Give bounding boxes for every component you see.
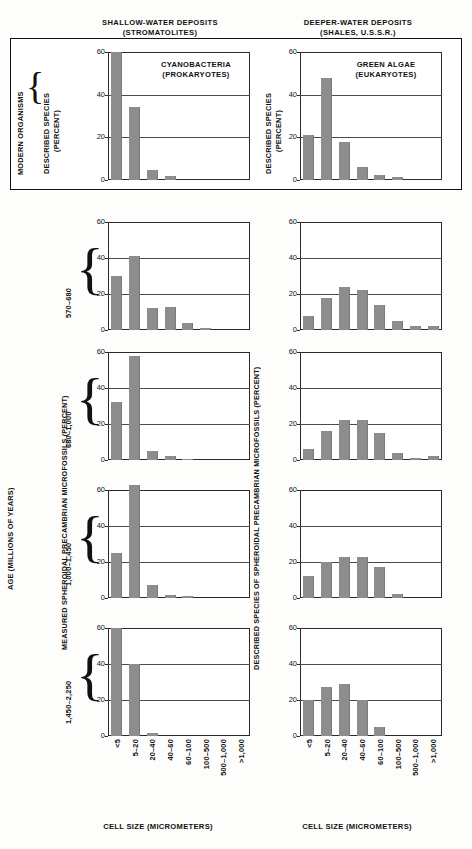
bar-age1-left-1 <box>129 256 140 330</box>
y-tickmark-20 <box>105 424 108 425</box>
y-tickmark-40 <box>297 95 300 96</box>
y-tick-40: 40 <box>289 660 297 668</box>
age-row-brace-1: { <box>76 370 104 428</box>
bar-modern-right-0 <box>303 135 314 180</box>
gridline-20 <box>300 294 442 295</box>
chart-inner-title: GREEN ALGAE(EUKARYOTES) <box>332 60 440 80</box>
bar-age1-left-4 <box>182 323 193 330</box>
bar-age2-left-2 <box>147 451 158 460</box>
bar-age4-right-3 <box>357 700 368 736</box>
column-header-deeper-water-line2: (SHALES, U.S.S.R.) <box>258 28 458 38</box>
bar-age3-left-0 <box>111 553 122 598</box>
bar-modern-right-5 <box>392 177 403 180</box>
chart-age4-right: 6040200 <box>300 628 442 736</box>
y-tickmark-40 <box>297 258 300 259</box>
bar-age2-right-0 <box>303 449 314 460</box>
y-tickmark-0 <box>297 330 300 331</box>
gridline-40 <box>300 258 442 259</box>
chart-inner-title-line1: GREEN ALGAE <box>332 60 440 70</box>
y-tickmark-40 <box>297 664 300 665</box>
y-tickmark-20 <box>105 700 108 701</box>
x-axis-label-right-3: 40–60 <box>358 739 367 761</box>
y-tickmark-60 <box>105 222 108 223</box>
age-row-label-1: 680–1,000 <box>64 370 73 448</box>
y-tick-20: 20 <box>289 290 297 298</box>
bar-age3-right-2 <box>339 557 350 598</box>
y-tickmark-20 <box>297 562 300 563</box>
y-tickmark-60 <box>105 628 108 629</box>
y-tickmark-60 <box>297 628 300 629</box>
bar-age4-right-4 <box>374 727 385 736</box>
y-tickmark-40 <box>105 664 108 665</box>
y-tickmark-20 <box>297 424 300 425</box>
y-tickmark-40 <box>297 526 300 527</box>
y-tickmark-40 <box>297 388 300 389</box>
bar-age1-right-0 <box>303 316 314 330</box>
chart-age4-left: 6040200 <box>108 628 250 736</box>
y-tick-60: 60 <box>289 218 297 226</box>
bar-age4-right-0 <box>303 700 314 736</box>
y-tick-40: 40 <box>289 384 297 392</box>
bar-age4-left-1 <box>129 664 140 736</box>
x-axis-label-left-3: 40–60 <box>166 739 175 761</box>
y-tick-20: 20 <box>289 696 297 704</box>
y-tickmark-40 <box>105 388 108 389</box>
y-tick-60: 60 <box>97 348 105 356</box>
y-tickmark-40 <box>105 258 108 259</box>
bar-modern-right-2 <box>339 142 350 180</box>
y-tick-60: 60 <box>97 486 105 494</box>
gridline-40 <box>300 526 442 527</box>
chart-inner-title-line2: (PROKARYOTES) <box>142 70 250 80</box>
x-axis-label-left-2: 20–40 <box>148 739 157 761</box>
bar-age1-left-5 <box>200 328 211 330</box>
bar-age2-left-1 <box>129 356 140 460</box>
bar-age2-left-3 <box>165 456 176 460</box>
bar-age1-right-4 <box>374 305 385 330</box>
x-axis-label-right-0: <5 <box>305 739 314 748</box>
bar-age2-left-4 <box>182 459 193 460</box>
x-axis-label-right-7: >1,000 <box>429 739 438 763</box>
bar-age1-right-7 <box>428 326 439 331</box>
bar-modern-left-3 <box>165 176 176 180</box>
y-tickmark-60 <box>105 52 108 53</box>
y-tickmark-20 <box>297 137 300 138</box>
x-axis-label-right-4: 60–100 <box>376 739 385 765</box>
y-tickmark-60 <box>105 352 108 353</box>
chart-age2-right: 6040200 <box>300 352 442 460</box>
bar-age3-left-1 <box>129 485 140 598</box>
bar-age1-left-3 <box>165 307 176 330</box>
y-tick-40: 40 <box>289 91 297 99</box>
age-row-brace-2: { <box>76 508 104 566</box>
bar-age2-right-5 <box>392 453 403 460</box>
bar-modern-left-1 <box>129 107 140 180</box>
chart-age2-left: 6040200 <box>108 352 250 460</box>
y-tickmark-60 <box>297 222 300 223</box>
gridline-40 <box>300 388 442 389</box>
y-tickmark-60 <box>105 490 108 491</box>
bar-age2-left-0 <box>111 402 122 460</box>
y-tick-60: 60 <box>289 48 297 56</box>
x-axis-label-left-1: 5–20 <box>131 739 140 756</box>
modern-y-axis-label-line1: DESCRIBED SPECIES <box>42 58 51 174</box>
bar-age2-right-4 <box>374 433 385 460</box>
x-axis-labels-right: <55–2020–4040–6060–100100–500500–1,000>1… <box>300 739 442 801</box>
bar-age1-right-5 <box>392 321 403 330</box>
bar-modern-left-0 <box>111 52 122 180</box>
gridline-40 <box>108 95 250 96</box>
y-tickmark-0 <box>297 460 300 461</box>
modern-right-y-axis-label-line2: (PERCENT) <box>274 80 283 152</box>
bar-age3-right-5 <box>392 594 403 598</box>
right-value-axis-label: DESCRIBED SPECIES OF SPHEROIDAL PRECAMBR… <box>252 330 261 670</box>
y-tickmark-0 <box>105 330 108 331</box>
y-tickmark-0 <box>297 180 300 181</box>
bar-age2-right-3 <box>357 420 368 460</box>
y-tickmark-20 <box>105 137 108 138</box>
y-tick-60: 60 <box>289 624 297 632</box>
bar-age3-right-1 <box>321 562 332 598</box>
x-axis-label-right-1: 5–20 <box>323 739 332 756</box>
bar-modern-right-3 <box>357 167 368 180</box>
bar-age1-right-3 <box>357 290 368 330</box>
gridline-40 <box>300 664 442 665</box>
bar-age2-right-7 <box>428 456 439 460</box>
chart-modern-right: 6040200GREEN ALGAE(EUKARYOTES) <box>300 52 442 180</box>
